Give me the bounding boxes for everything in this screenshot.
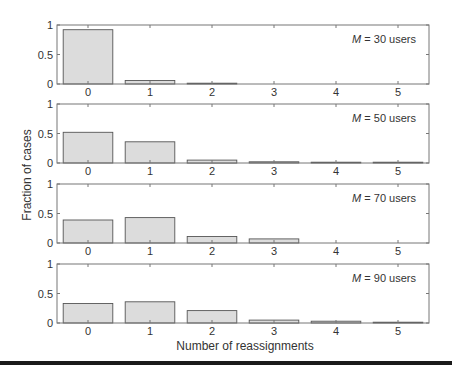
x-tick-label: 2 (209, 325, 215, 337)
y-tick-label: 0 (47, 78, 53, 90)
y-tick-label: 1 (47, 178, 53, 190)
x-tick-label: 0 (85, 245, 91, 257)
x-tick-label: 1 (147, 86, 153, 98)
x-tick-label: 4 (333, 325, 339, 337)
panel-annotation: M = 30 users (352, 33, 416, 45)
y-tick-label: 1 (47, 258, 53, 270)
y-tick-label: 0 (47, 157, 53, 169)
y-tick-label: 0.5 (38, 49, 53, 61)
y-tick-label: 0 (47, 317, 53, 329)
subplot-panel: 01234500.51M = 70 users (38, 178, 429, 257)
x-tick-label: 2 (209, 165, 215, 177)
subplot-panel: 01234500.51M = 30 users (38, 19, 429, 98)
x-tick-label: 0 (85, 86, 91, 98)
x-tick-label: 4 (333, 245, 339, 257)
y-axis-label: Fraction of cases (20, 129, 34, 220)
x-tick-label: 4 (333, 165, 339, 177)
y-tick-label: 0.5 (38, 208, 53, 220)
x-tick-label: 0 (85, 325, 91, 337)
bar (63, 220, 113, 243)
figure: 01234500.51M = 30 users01234500.51M = 50… (0, 0, 452, 373)
annotation-value: = 70 users (361, 192, 416, 204)
y-tick-label: 0.5 (38, 288, 53, 300)
x-tick-label: 2 (209, 245, 215, 257)
bar (63, 30, 113, 84)
bar (125, 302, 175, 323)
x-tick-label: 3 (271, 86, 277, 98)
y-tick-label: 1 (47, 19, 53, 31)
x-tick-label: 0 (85, 165, 91, 177)
x-tick-label: 5 (395, 245, 401, 257)
y-tick-label: 0.5 (38, 128, 53, 140)
subplot-panel: 01234500.51M = 50 users (38, 98, 429, 177)
x-tick-label: 4 (333, 86, 339, 98)
panel-annotation: M = 70 users (352, 192, 416, 204)
x-tick-label: 3 (271, 165, 277, 177)
bar (63, 132, 113, 163)
x-tick-label: 5 (395, 325, 401, 337)
subplot-panels: 01234500.51M = 30 users01234500.51M = 50… (38, 19, 429, 337)
y-tick-label: 0 (47, 237, 53, 249)
bar (125, 218, 175, 243)
annotation-value: = 30 users (361, 33, 416, 45)
annotation-value: = 50 users (361, 112, 416, 124)
x-tick-label: 5 (395, 165, 401, 177)
bottom-rule (0, 361, 452, 365)
x-tick-label: 5 (395, 86, 401, 98)
panel-annotation: M = 50 users (352, 112, 416, 124)
bar (125, 142, 175, 163)
x-axis-label: Number of reassignments (176, 339, 313, 353)
subplot-panel: 01234500.51M = 90 users (38, 258, 429, 337)
x-tick-label: 1 (147, 165, 153, 177)
y-tick-label: 1 (47, 98, 53, 110)
x-tick-label: 1 (147, 325, 153, 337)
x-tick-label: 2 (209, 86, 215, 98)
x-tick-label: 3 (271, 325, 277, 337)
x-tick-label: 3 (271, 245, 277, 257)
x-tick-label: 1 (147, 245, 153, 257)
panel-annotation: M = 90 users (352, 272, 416, 284)
annotation-value: = 90 users (361, 272, 416, 284)
